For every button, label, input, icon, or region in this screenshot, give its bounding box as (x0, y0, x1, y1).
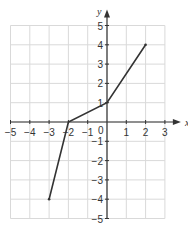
x-tick-label: 2 (143, 127, 149, 138)
coordinate-plane: xy −5−4−3−2−1012354321−1−2−3−4−5 (0, 0, 188, 224)
axes: xy (11, 6, 189, 219)
x-tick-label: −3 (43, 127, 55, 138)
x-axis-arrow-icon (173, 119, 181, 125)
x-tick-label: 3 (162, 127, 168, 138)
y-tick-label: 3 (97, 59, 103, 70)
x-tick-label: −5 (5, 127, 17, 138)
y-axis-arrow-icon (104, 10, 110, 18)
x-axis-label: x (184, 117, 188, 128)
y-tick-label: −2 (92, 156, 104, 167)
x-tick-label: 1 (124, 127, 130, 138)
y-tick-label: −3 (92, 175, 104, 186)
y-tick-label: 5 (97, 21, 103, 32)
endpoint-dot (144, 44, 147, 47)
y-tick-label: −5 (92, 214, 104, 225)
x-tick-label: −4 (24, 127, 36, 138)
y-tick-label: −1 (92, 136, 104, 147)
y-tick-label: 4 (97, 40, 103, 51)
y-tick-label: 2 (97, 78, 103, 89)
endpoint-dot (48, 198, 51, 201)
y-tick-label: −4 (92, 194, 104, 205)
origin-label: 0 (98, 125, 104, 136)
y-axis-label: y (96, 6, 102, 17)
